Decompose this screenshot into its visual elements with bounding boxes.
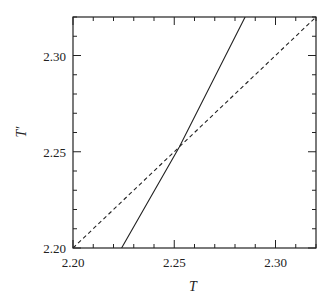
x-axis-label: T — [189, 279, 198, 294]
chart: 2.202.252.302.202.252.30 T T′ — [0, 0, 331, 304]
identity-line-dashed — [73, 17, 316, 248]
x-tick-label: 2.30 — [264, 255, 287, 270]
plot-area — [73, 17, 316, 248]
map-line-solid — [122, 17, 246, 248]
x-tick-label: 2.20 — [62, 255, 85, 270]
y-tick-label: 2.25 — [43, 145, 66, 160]
y-tick-label: 2.30 — [43, 49, 66, 64]
y-tick-label: 2.20 — [43, 241, 66, 256]
y-axis-label: T′ — [14, 126, 29, 138]
x-tick-label: 2.25 — [163, 255, 186, 270]
tick-labels: 2.202.252.302.202.252.30 — [43, 49, 287, 271]
